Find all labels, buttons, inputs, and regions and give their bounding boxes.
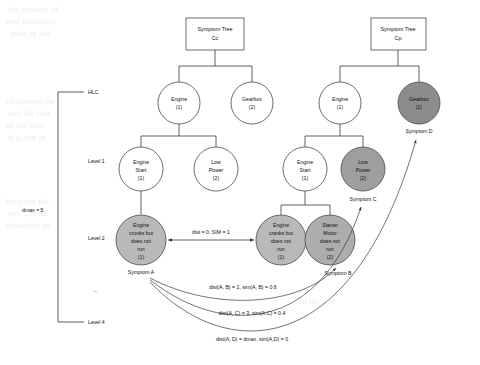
node-cp-engine xyxy=(319,82,361,124)
node-cc-crank-l4: run xyxy=(137,246,145,252)
axis-level-1: Level 1 xyxy=(88,158,105,164)
cp-edge-level2 xyxy=(281,191,330,216)
node-cc-crank-l1: Engine xyxy=(133,222,149,228)
node-cp-low-power-l3: (2) xyxy=(360,175,367,181)
cp-edge-level1 xyxy=(305,124,363,147)
node-cp-crank-l4: run xyxy=(277,246,285,252)
node-cp-starter-l5: (2) xyxy=(327,254,334,260)
symptom-a-label: Symptom A xyxy=(128,269,155,275)
node-cc-engine-l1: Engine xyxy=(171,96,187,102)
node-cc-engine xyxy=(158,82,200,124)
node-cp-crank-l5: (1) xyxy=(278,254,285,260)
node-cp-starter-l2: Motor xyxy=(323,230,337,236)
cp-edge-root xyxy=(340,50,419,82)
node-cp-engine-l1: Engine xyxy=(332,96,348,102)
axis-level-hlc: HLC xyxy=(88,89,99,95)
node-cp-gearbox-l1: Gearbox xyxy=(409,96,429,102)
node-cc-engine-l2: (1) xyxy=(176,104,183,110)
cc-edge-level1 xyxy=(141,124,216,147)
node-cp-crank-l3: does not xyxy=(271,238,291,244)
axis-level-2: Level 2 xyxy=(88,235,105,241)
curve-ab-label: dist(A, B) = 2, sim(A, B) = 0.6 xyxy=(209,284,277,290)
node-cp-engine-start-l2: Start xyxy=(300,167,312,173)
dmax-label: dmax = 5 xyxy=(22,207,44,213)
symptom-tree-cp-line2: Cp xyxy=(395,35,402,41)
node-cc-engine-start-l2: Start xyxy=(136,167,148,173)
node-cc-gearbox-l1: Gearbox xyxy=(242,96,262,102)
node-cp-low-power-l2: Power xyxy=(356,167,371,173)
node-cc-crank-l3: does not xyxy=(131,238,151,244)
symptom-d-label: Symptom D xyxy=(405,128,432,134)
node-cp-gearbox-l2: (2) xyxy=(416,104,423,110)
node-cp-gearbox-symptom-d xyxy=(398,82,440,124)
dmax-bracket xyxy=(58,92,84,322)
node-cp-engine-start-l3: (1) xyxy=(302,175,309,181)
curve-ad-label: dist(A, D) = dmax, sim(A,D) = 0 xyxy=(216,336,288,342)
diagram-canvas: the process of and similarity node in th… xyxy=(0,0,480,365)
node-cp-crank-l2: cranks but xyxy=(269,230,293,236)
node-cc-crank-l5: (1) xyxy=(138,254,145,260)
node-cp-low-power-l1: Low xyxy=(358,159,368,165)
node-cc-engine-start-l3: (1) xyxy=(138,175,145,181)
node-cp-engine-l2: (1) xyxy=(337,104,344,110)
node-cc-gearbox-l2: (2) xyxy=(249,104,256,110)
edge-dist-zero-label: dist = 0, SIM = 1 xyxy=(192,229,230,235)
node-cp-starter-l3: does not xyxy=(320,238,340,244)
diagram-svg: dmax = 5 HLC Level 1 Level 2 ... Level 4… xyxy=(0,0,480,365)
node-cc-low-power-l1: Low xyxy=(211,159,221,165)
curve-ac-label: dist(A, C) = 3, sim(A,C) = 0.4 xyxy=(219,310,286,316)
node-cc-crank-l2: crunks but xyxy=(129,230,153,236)
axis-level-dots: ... xyxy=(93,287,97,293)
node-cc-low-power-l3: (2) xyxy=(213,175,220,181)
node-cc-low-power-l2: Power xyxy=(209,167,224,173)
symptom-tree-cp-line1: Symptom Tree xyxy=(380,26,415,32)
node-cc-gearbox xyxy=(231,82,273,124)
symptom-tree-cc-box xyxy=(186,18,244,50)
symptom-tree-cc-line1: Symptom Tree xyxy=(197,26,232,32)
node-cp-engine-start-l1: Engine xyxy=(297,159,313,165)
node-cp-starter-l1: Starter xyxy=(322,222,338,228)
node-cp-crank-l1: Engine xyxy=(273,222,289,228)
axis-level-4: Level 4 xyxy=(88,319,105,325)
node-cc-engine-start-l1: Engine xyxy=(133,159,149,165)
symptom-tree-cc-line2: Cc xyxy=(212,35,219,41)
cc-edge-root xyxy=(179,50,252,82)
node-cp-starter-l4: run xyxy=(326,246,334,252)
symptom-tree-cp-box xyxy=(371,18,426,50)
symptom-c-label: Symptom C xyxy=(349,196,376,202)
